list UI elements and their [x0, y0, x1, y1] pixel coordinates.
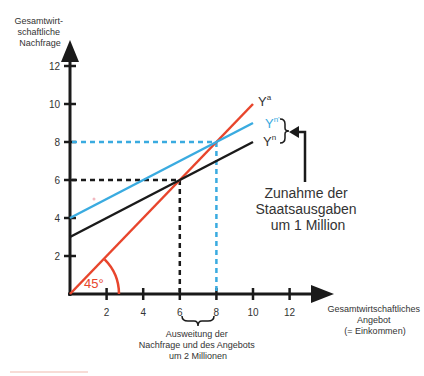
- angle-label: 45°: [84, 276, 104, 291]
- y-axis-arrowhead: [61, 40, 79, 62]
- x-axis-title: Gesamtwirtschaftliches Angebot (= Einkom…: [327, 304, 422, 336]
- series-line-yn: [70, 142, 253, 237]
- series-label-yn-prime: Yn': [265, 115, 280, 131]
- y-axis-title: Gesamtwirt- schaftliche Nachfrage: [14, 16, 65, 48]
- shift-arrowhead: [289, 126, 299, 138]
- y-tick-label: 10: [49, 99, 61, 110]
- series-line-yn-prime: [70, 123, 253, 218]
- x-tick-label: 10: [247, 307, 259, 318]
- series-line-ya: [70, 104, 253, 294]
- series-label-yn: Yn: [263, 133, 276, 149]
- y-tick-label: 2: [54, 251, 60, 262]
- chart: 2468101224681012 45° Ya Yn' Yn Zunahme d…: [0, 0, 424, 376]
- series-label-ya: Ya: [258, 93, 272, 109]
- y-tick-label: 4: [54, 213, 60, 224]
- y-tick-label: 8: [54, 137, 60, 148]
- series-brace: [280, 119, 289, 143]
- stray-dot: [93, 198, 96, 201]
- y-tick-label: 12: [49, 61, 61, 72]
- shift-arrow-line: [297, 132, 305, 182]
- x-tick-label: 4: [140, 307, 146, 318]
- expansion-brace: [182, 316, 214, 326]
- x-tick-label: 12: [284, 307, 296, 318]
- shift-annotation: Zunahme der Staatsausgaben um 1 Million: [255, 185, 360, 233]
- x-axis-arrowhead: [311, 285, 334, 303]
- x-tick-label: 2: [104, 307, 110, 318]
- expansion-annotation: Ausweitung der Nachfrage und des Angebot…: [139, 329, 258, 361]
- y-tick-label: 6: [54, 175, 60, 186]
